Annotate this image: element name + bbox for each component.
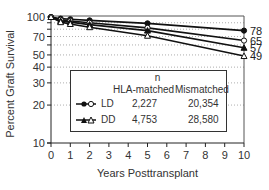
data-point xyxy=(241,28,246,33)
legend-dd-label: DD xyxy=(101,114,115,125)
y-tick-label: 10 xyxy=(33,137,45,149)
x-tick-label: 6 xyxy=(164,149,170,161)
y-tick-label: 50 xyxy=(33,49,45,61)
legend: n HLA-matched Mismatched LD 2,227 20,354… xyxy=(70,70,227,132)
legend-col-matched: HLA-matched xyxy=(113,84,174,95)
y-tick-label: 70 xyxy=(33,31,45,43)
data-point xyxy=(241,38,246,43)
x-tick-label: 3 xyxy=(106,149,112,161)
x-tick-label: 8 xyxy=(202,149,208,161)
x-tick-label: 0 xyxy=(48,149,54,161)
y-tick-label: 100 xyxy=(27,11,45,23)
y-tick-label: 20 xyxy=(33,99,45,111)
x-tick-label: 7 xyxy=(183,149,189,161)
legend-dd-matched-n: 4,753 xyxy=(132,114,157,125)
legend-ld-mismatched-n: 20,354 xyxy=(188,98,219,109)
y-axis-title: Percent Graft Survival xyxy=(4,30,16,138)
legend-n-header: n xyxy=(71,72,226,83)
y-tick-label: 30 xyxy=(33,77,45,89)
x-tick-label: 5 xyxy=(144,149,150,161)
x-tick-label: 4 xyxy=(125,149,131,161)
legend-dd-mismatched-n: 28,580 xyxy=(188,114,219,125)
x-tick-label: 2 xyxy=(87,149,93,161)
x-tick-label: 10 xyxy=(238,149,250,161)
y-tick-label: 40 xyxy=(33,61,45,73)
x-tick-label: 9 xyxy=(222,149,228,161)
legend-row-dd: DD 4,753 28,580 xyxy=(76,114,226,128)
dd-marker-icon xyxy=(76,114,100,126)
x-axis-title: Years Posttransplant xyxy=(97,167,198,179)
series-end-label: 49 xyxy=(250,50,262,62)
legend-col-mismatched: Mismatched xyxy=(175,84,229,95)
legend-ld-matched-n: 2,227 xyxy=(132,98,157,109)
x-tick-label: 1 xyxy=(67,149,73,161)
ld-marker-icon xyxy=(76,98,100,110)
legend-ld-label: LD xyxy=(101,98,114,109)
legend-row-ld: LD 2,227 20,354 xyxy=(76,98,226,112)
